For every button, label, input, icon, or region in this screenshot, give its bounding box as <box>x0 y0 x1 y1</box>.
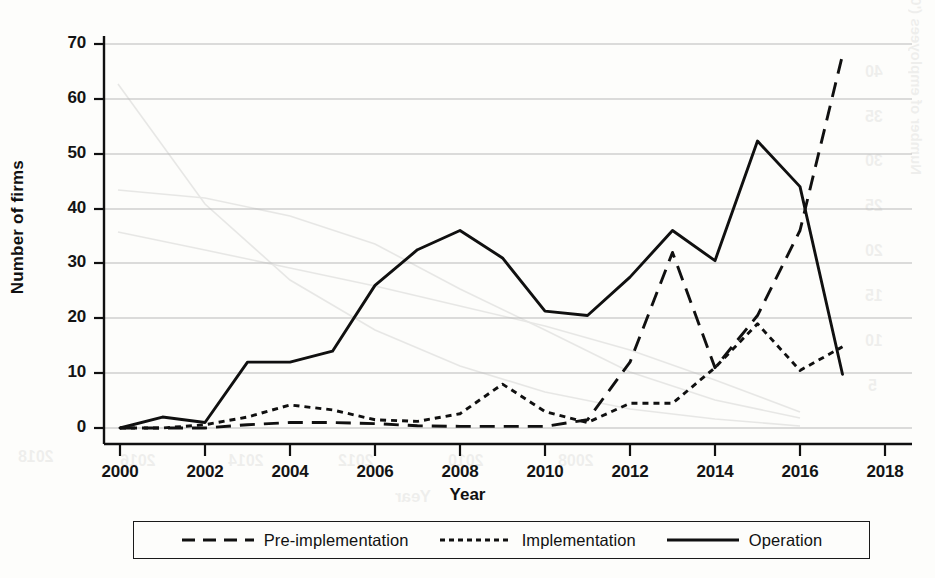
showthrough-curves <box>118 84 800 426</box>
x-tick-label-2012: 2012 <box>600 462 660 482</box>
axis-lines <box>104 36 912 444</box>
x-tick-label-2008: 2008 <box>430 462 490 482</box>
legend-label-operation: Operation <box>749 531 822 550</box>
y-tick-label-40: 40 <box>46 198 86 218</box>
x-tick-label-2002: 2002 <box>175 462 235 482</box>
chart-figure: 40 35 30 25 20 15 10 5 Number of employe… <box>0 0 935 578</box>
x-tick-label-2004: 2004 <box>260 462 320 482</box>
legend-item-operation[interactable]: Operation <box>666 531 822 550</box>
y-tick-label-20: 20 <box>46 307 86 327</box>
x-tick-label-2006: 2006 <box>345 462 405 482</box>
x-tick-label-2018: 2018 <box>855 462 915 482</box>
y-tick-label-30: 30 <box>46 252 86 272</box>
x-axis-title: Year <box>0 485 935 505</box>
y-axis-ticks <box>94 44 104 428</box>
legend-label-implementation: Implementation <box>522 531 636 550</box>
x-axis-ticks <box>120 444 885 456</box>
legend-item-implementation[interactable]: Implementation <box>439 531 636 550</box>
legend-label-pre-implementation: Pre-implementation <box>264 531 409 550</box>
legend-swatch-dotted-icon <box>439 534 513 546</box>
legend-item-pre-implementation[interactable]: Pre-implementation <box>181 531 409 550</box>
y-tick-label-70: 70 <box>46 33 86 53</box>
y-axis-title: Number of firms <box>8 160 32 294</box>
y-tick-label-0: 0 <box>46 417 86 437</box>
legend-swatch-long-dashed-icon <box>181 534 255 546</box>
y-tick-label-60: 60 <box>46 88 86 108</box>
series-line-operation <box>120 141 843 428</box>
x-tick-label-2010: 2010 <box>515 462 575 482</box>
x-tick-label-2016: 2016 <box>770 462 830 482</box>
x-tick-label-2000: 2000 <box>90 462 150 482</box>
y-tick-label-10: 10 <box>46 362 86 382</box>
series-line-implementation <box>120 324 843 428</box>
chart-legend: Pre-implementation Implementation Operat… <box>133 521 870 559</box>
x-tick-label-2014: 2014 <box>685 462 745 482</box>
gridlines <box>104 44 912 428</box>
y-tick-label-50: 50 <box>46 143 86 163</box>
legend-swatch-solid-icon <box>666 534 740 546</box>
